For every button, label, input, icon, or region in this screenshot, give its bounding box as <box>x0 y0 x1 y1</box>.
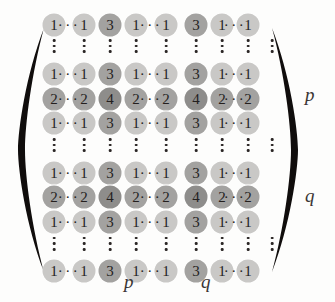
horizontal-ellipsis-glyph: ··· <box>224 17 247 32</box>
vertical-ellipsis <box>83 237 86 251</box>
matrix-row: 22422422········· <box>44 87 280 111</box>
matrix-row: 11311311········· <box>44 111 280 135</box>
matrix-row: 11311311········· <box>44 210 280 234</box>
vertical-ellipsis <box>271 39 274 53</box>
vertical-ellipsis <box>53 138 56 152</box>
horizontal-ellipsis: ··· <box>224 17 247 32</box>
horizontal-ellipsis: ··· <box>58 17 81 32</box>
horizontal-ellipsis: ··· <box>58 264 81 279</box>
vertical-ellipsis <box>271 138 274 152</box>
vertical-ellipsis <box>109 138 112 152</box>
vertical-ellipsis <box>247 39 250 53</box>
matrix-value-3: 3 <box>185 211 208 234</box>
horizontal-ellipsis: ··· <box>58 165 81 180</box>
horizontal-ellipsis: ··· <box>140 264 163 279</box>
horizontal-ellipsis: ··· <box>140 17 163 32</box>
horizontal-ellipsis-glyph: ··· <box>224 91 247 106</box>
horizontal-ellipsis-glyph: ··· <box>58 165 81 180</box>
horizontal-ellipsis-glyph: ··· <box>58 215 81 230</box>
horizontal-ellipsis-glyph: ··· <box>58 66 81 81</box>
matrix-cell: 3 <box>99 112 122 135</box>
horizontal-ellipsis-glyph: ··· <box>58 116 81 131</box>
matrix-value-3: 3 <box>99 260 122 283</box>
horizontal-ellipsis: ··· <box>224 215 247 230</box>
horizontal-ellipsis: ··· <box>224 165 247 180</box>
vertical-ellipsis <box>247 138 250 152</box>
vertical-ellipsis <box>221 237 224 251</box>
matrix-value-3: 3 <box>99 161 122 184</box>
horizontal-ellipsis-glyph: ··· <box>58 264 81 279</box>
column-group-label-p: p <box>124 271 134 293</box>
matrix-cell: 3 <box>99 13 122 36</box>
matrix-cell: 3 <box>99 161 122 184</box>
row-group-label-p: p <box>305 84 315 106</box>
vertical-ellipsis <box>135 138 138 152</box>
horizontal-ellipsis: ··· <box>140 165 163 180</box>
horizontal-ellipsis-glyph: ··· <box>224 116 247 131</box>
column-group-label-q: q <box>201 271 211 293</box>
matrix-cell: 3 <box>185 161 208 184</box>
horizontal-ellipsis: ··· <box>224 66 247 81</box>
horizontal-ellipsis-glyph: ··· <box>224 264 247 279</box>
horizontal-ellipsis-glyph: ··· <box>140 91 163 106</box>
matrix-row: 22422422········· <box>44 185 280 209</box>
horizontal-ellipsis: ··· <box>140 116 163 131</box>
matrix-row: 11311311········· <box>44 62 280 86</box>
matrix-cell: 3 <box>99 211 122 234</box>
matrix-value-3: 3 <box>99 211 122 234</box>
vertical-ellipsis <box>221 138 224 152</box>
horizontal-ellipsis-glyph: ··· <box>140 17 163 32</box>
matrix-value-3: 3 <box>185 112 208 135</box>
matrix-value-3: 3 <box>99 62 122 85</box>
matrix-ellipsis-row <box>44 37 280 55</box>
matrix-row: 11311311········· <box>44 259 280 283</box>
horizontal-ellipsis-glyph: ··· <box>140 116 163 131</box>
matrix-row: 11311311········· <box>44 13 280 37</box>
matrix-value-4: 4 <box>99 87 122 110</box>
matrix-cell: 3 <box>185 112 208 135</box>
matrix-grid: 11311311·········11311311·········224224… <box>44 14 280 282</box>
vertical-ellipsis <box>165 39 168 53</box>
vertical-ellipsis <box>271 237 274 251</box>
matrix-cell: 4 <box>185 87 208 110</box>
horizontal-ellipsis: ··· <box>140 66 163 81</box>
vertical-ellipsis <box>83 138 86 152</box>
matrix-cell: 4 <box>99 87 122 110</box>
horizontal-ellipsis-glyph: ··· <box>58 91 81 106</box>
matrix-value-3: 3 <box>185 13 208 36</box>
matrix-value-3: 3 <box>99 13 122 36</box>
vertical-ellipsis <box>83 39 86 53</box>
horizontal-ellipsis-glyph: ··· <box>224 66 247 81</box>
horizontal-ellipsis: ··· <box>58 215 81 230</box>
vertical-ellipsis <box>109 237 112 251</box>
vertical-ellipsis <box>53 39 56 53</box>
matrix-cell: 3 <box>185 211 208 234</box>
vertical-ellipsis <box>195 237 198 251</box>
horizontal-ellipsis-glyph: ··· <box>140 264 163 279</box>
vertical-ellipsis <box>109 39 112 53</box>
row-group-label-q: q <box>305 185 315 207</box>
horizontal-ellipsis: ··· <box>58 190 81 205</box>
horizontal-ellipsis: ··· <box>58 91 81 106</box>
horizontal-ellipsis: ··· <box>224 190 247 205</box>
vertical-ellipsis <box>195 138 198 152</box>
horizontal-ellipsis-glyph: ··· <box>140 165 163 180</box>
matrix-cell: 3 <box>185 13 208 36</box>
horizontal-ellipsis: ··· <box>224 91 247 106</box>
horizontal-ellipsis-glyph: ··· <box>140 190 163 205</box>
matrix-value-4: 4 <box>99 186 122 209</box>
horizontal-ellipsis: ··· <box>224 264 247 279</box>
matrix-figure: 11311311·········11311311·········224224… <box>0 0 335 302</box>
vertical-ellipsis <box>195 39 198 53</box>
horizontal-ellipsis-glyph: ··· <box>58 190 81 205</box>
vertical-ellipsis <box>135 39 138 53</box>
vertical-ellipsis <box>135 237 138 251</box>
matrix-value-3: 3 <box>99 112 122 135</box>
matrix-value-4: 4 <box>185 186 208 209</box>
horizontal-ellipsis-glyph: ··· <box>140 66 163 81</box>
matrix-cell: 3 <box>99 260 122 283</box>
horizontal-ellipsis: ··· <box>140 215 163 230</box>
matrix-row: 11311311········· <box>44 161 280 185</box>
horizontal-ellipsis-glyph: ··· <box>58 17 81 32</box>
vertical-ellipsis <box>165 138 168 152</box>
